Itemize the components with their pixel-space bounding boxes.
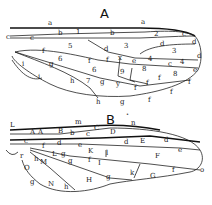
label: d (197, 52, 202, 60)
label: H (86, 176, 92, 184)
label: f (88, 156, 92, 164)
label: i (38, 73, 41, 81)
label: g (120, 98, 125, 106)
label: d (124, 138, 129, 146)
label: g (61, 150, 66, 158)
label: D (110, 128, 116, 136)
label: L (10, 121, 15, 129)
labels-b: L m n A A B b c C D c d E d e d e K f l … (10, 118, 204, 191)
label: d (192, 38, 197, 46)
label: 2 (154, 30, 158, 38)
cross-veins-b (106, 150, 140, 178)
label: d (164, 136, 169, 144)
wing-b: B • L m n A A B b c C D c d E d e d e (6, 111, 204, 192)
label: 3 (124, 42, 128, 50)
label: c (6, 33, 10, 41)
label: h (34, 155, 39, 163)
label: x (118, 54, 122, 62)
label: h (64, 183, 69, 191)
label: f (158, 74, 162, 82)
label: a (141, 18, 145, 26)
label: 1 (76, 28, 80, 36)
label: 6 (92, 66, 97, 74)
label: d (57, 139, 62, 147)
label: 7 (86, 77, 90, 85)
label: h (96, 98, 101, 106)
dot-mark: • (126, 111, 129, 117)
label: C (94, 124, 99, 132)
label: c (24, 137, 28, 145)
label: f (188, 78, 192, 86)
label: 8 (173, 70, 177, 78)
vein-c-a (10, 36, 195, 38)
label: f (148, 96, 152, 104)
alula-b (6, 150, 18, 155)
label: F (155, 152, 160, 160)
label: E (140, 137, 145, 145)
label: e (193, 66, 197, 74)
label: M (40, 158, 47, 166)
wing-a: A a a b 1 b 2 c c c d 3 d 3 d d 5 f 6 (6, 6, 202, 106)
vein-d-b (10, 136, 200, 142)
label: g (100, 78, 105, 86)
label: r (20, 152, 24, 160)
label: b (70, 129, 75, 137)
label: A (29, 128, 36, 136)
label: f (170, 88, 174, 96)
label: c (86, 130, 90, 138)
label: g (49, 60, 54, 68)
label: g (106, 173, 111, 181)
label: e (78, 141, 82, 149)
label: b (110, 29, 115, 37)
label: e (132, 57, 136, 65)
label: h (70, 77, 75, 85)
label: 4 (148, 55, 153, 63)
label: f (42, 142, 46, 150)
label: d (160, 40, 165, 48)
vein-h-a (15, 52, 98, 98)
label: g (68, 157, 73, 165)
label: G (150, 172, 156, 180)
label: c (182, 30, 186, 38)
label: 9 (120, 68, 124, 76)
label: b (58, 29, 63, 37)
label: O (24, 164, 30, 172)
label: y (115, 80, 120, 88)
label: N (48, 180, 54, 188)
label: l (106, 149, 109, 157)
label: 5 (68, 42, 72, 50)
label: c (168, 60, 172, 68)
label: k (130, 169, 135, 177)
label: i (22, 60, 25, 68)
label: o (200, 166, 204, 174)
caption-a: A (100, 6, 109, 21)
label: g (30, 178, 35, 186)
label: 8 (142, 65, 146, 73)
vein-d2-a (140, 44, 195, 54)
label: 4 (180, 58, 185, 66)
label: A (37, 128, 44, 136)
label: I (98, 159, 101, 167)
label: m (75, 118, 82, 126)
label: B (58, 127, 63, 135)
label: d (104, 45, 109, 53)
label: 3 (172, 47, 176, 55)
label: f (146, 79, 150, 87)
label: L (52, 150, 57, 158)
label: n (131, 119, 136, 127)
label: c (30, 34, 34, 42)
label: 6 (58, 55, 63, 63)
label: a (48, 19, 52, 27)
label: e (178, 146, 182, 154)
label: K (88, 147, 94, 155)
vein-e-b (10, 144, 200, 150)
label: f (106, 56, 110, 64)
wing-diagram: A a a b 1 b 2 c c c d 3 d 3 d d 5 f 6 (0, 0, 212, 205)
